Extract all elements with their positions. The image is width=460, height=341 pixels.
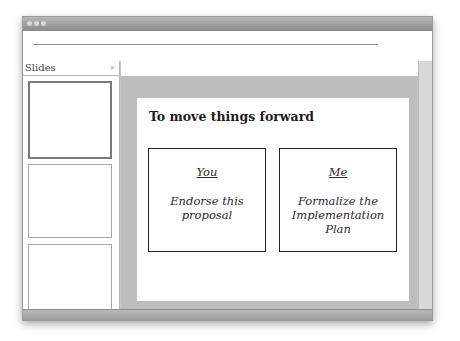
app-window: Slides × To move things forward You Endo… xyxy=(22,16,433,321)
slide-title[interactable]: To move things forward xyxy=(149,109,314,124)
vertical-scrollbar[interactable] xyxy=(418,61,432,310)
zoom-window-button[interactable] xyxy=(41,21,46,26)
slides-panel-title: Slides xyxy=(25,62,56,73)
close-window-button[interactable] xyxy=(27,21,32,26)
slide[interactable]: To move things forward You Endorse this … xyxy=(137,98,409,301)
slides-panel-header: Slides × xyxy=(23,61,119,76)
slides-panel: Slides × xyxy=(23,61,120,310)
me-body: Formalize the Implementation Plan xyxy=(280,194,396,236)
you-heading: You xyxy=(149,165,265,179)
minimize-window-button[interactable] xyxy=(34,21,39,26)
slide-thumbnail-3[interactable] xyxy=(28,244,112,314)
slide-thumbnail-1[interactable] xyxy=(28,81,112,159)
close-icon[interactable]: × xyxy=(109,61,115,75)
titlebar[interactable] xyxy=(23,17,432,32)
you-box[interactable]: You Endorse this proposal xyxy=(148,148,266,252)
toolbar-divider xyxy=(33,44,378,45)
slide-canvas: To move things forward You Endorse this … xyxy=(121,76,419,310)
slide-thumbnail-2[interactable] xyxy=(28,164,112,238)
slide-editor: To move things forward You Endorse this … xyxy=(120,61,419,310)
me-box[interactable]: Me Formalize the Implementation Plan xyxy=(279,148,397,252)
status-bar xyxy=(23,309,432,320)
toolbar xyxy=(23,31,432,62)
you-body: Endorse this proposal xyxy=(149,194,265,222)
me-heading: Me xyxy=(280,165,396,179)
